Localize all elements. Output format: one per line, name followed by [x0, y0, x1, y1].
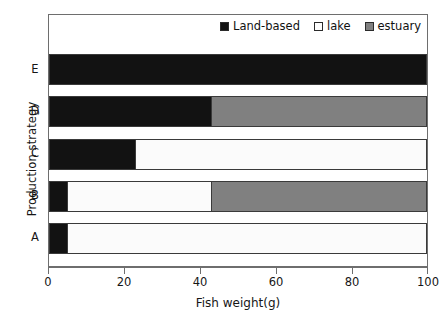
bar-segment[interactable]	[68, 223, 427, 254]
x-axis-tick	[48, 268, 49, 274]
bar-segment[interactable]	[136, 139, 427, 170]
x-axis-tick-label: 80	[345, 275, 360, 289]
plot-area: Land-basedlakeestuary	[48, 14, 428, 267]
y-axis-tick-label: B	[24, 188, 46, 202]
y-axis-tick-label: A	[24, 230, 46, 244]
x-axis-tick-label: 100	[417, 275, 439, 289]
bar-segment[interactable]	[49, 96, 212, 127]
y-axis-tick-label: E	[24, 62, 46, 76]
bar-segment[interactable]	[49, 139, 136, 170]
x-axis-title: Fish weight(g)	[48, 296, 428, 310]
bars-layer	[49, 15, 427, 266]
x-axis-tick	[352, 268, 353, 274]
bar-row[interactable]	[49, 96, 427, 127]
x-axis-tick-label: 20	[117, 275, 132, 289]
bar-row[interactable]	[49, 181, 427, 212]
y-axis-tick-label: C	[24, 146, 46, 160]
bar-segment[interactable]	[49, 181, 68, 212]
x-axis-tick-labels: 020406080100	[48, 275, 428, 291]
bar-segment[interactable]	[212, 96, 427, 127]
x-axis-ticks	[48, 268, 428, 274]
stacked-bar-chart: Production strategy EDCBA Land-basedlake…	[0, 0, 444, 320]
bar-segment[interactable]	[68, 181, 212, 212]
x-axis-tick-label: 60	[269, 275, 284, 289]
x-axis-tick	[200, 268, 201, 274]
y-axis-tick-label: D	[24, 104, 46, 118]
x-axis-tick	[427, 268, 428, 274]
bar-row[interactable]	[49, 139, 427, 170]
x-axis-tick-label: 40	[193, 275, 208, 289]
bar-row[interactable]	[49, 54, 427, 85]
x-axis-tick	[124, 268, 125, 274]
x-axis-tick-label: 0	[44, 275, 51, 289]
bar-segment[interactable]	[49, 54, 427, 85]
y-axis-tick-labels: EDCBA	[24, 14, 46, 267]
x-axis-tick	[276, 268, 277, 274]
bar-row[interactable]	[49, 223, 427, 254]
bar-segment[interactable]	[212, 181, 427, 212]
bar-segment[interactable]	[49, 223, 68, 254]
